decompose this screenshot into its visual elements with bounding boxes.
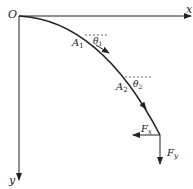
origin-label: O <box>8 8 17 21</box>
trajectory-curve <box>19 16 160 135</box>
physics-diagram: O x y A1 A2 θ1 θ2 Fx Fy <box>0 0 193 189</box>
x-axis-label: x <box>186 3 193 16</box>
angle-theta2-label: θ2 <box>133 79 142 90</box>
angle-theta1-label: θ1 <box>93 36 102 47</box>
force-fx-label: Fx <box>140 123 152 136</box>
velocity-arrow-a2 <box>138 98 146 109</box>
point-a2-label: A2 <box>115 81 128 94</box>
y-axis-label: y <box>8 174 16 187</box>
point-a1-label: A1 <box>71 37 84 50</box>
force-fy-label: Fy <box>166 147 179 160</box>
